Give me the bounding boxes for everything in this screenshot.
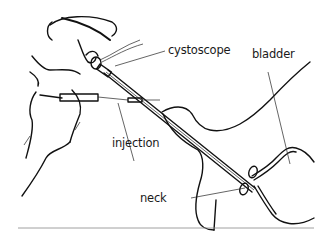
cystoscope-leader <box>115 51 165 66</box>
label-cystoscope: cystoscope <box>168 43 230 57</box>
label-injection: injection <box>112 136 159 150</box>
bladder-urethra <box>238 147 314 223</box>
surgeon-head <box>30 17 143 86</box>
injection-leader <box>118 103 134 161</box>
cystoscope-shaft <box>104 70 255 192</box>
neck-leader <box>191 188 245 198</box>
bladder-leader <box>268 72 290 164</box>
label-bladder: bladder <box>252 47 295 61</box>
label-neck: neck <box>140 191 167 205</box>
surgeon-hand <box>22 90 81 196</box>
syringe <box>40 94 160 102</box>
cystoscopy-illustration: cystoscope bladder injection neck <box>0 0 333 244</box>
line-drawing <box>0 0 333 244</box>
patient-body <box>162 62 310 230</box>
